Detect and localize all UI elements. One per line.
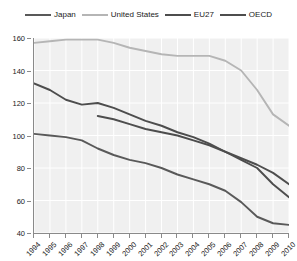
y-tick-mark bbox=[27, 201, 31, 202]
y-tick-label: 80 bbox=[17, 164, 25, 173]
legend-swatch-icon bbox=[220, 14, 246, 16]
x-tick-mark bbox=[161, 234, 162, 238]
legend-label: EU27 bbox=[194, 11, 214, 19]
y-tick-label: 100 bbox=[12, 131, 25, 140]
x-tick-label: 1995 bbox=[40, 240, 58, 258]
x-tick-label: 1998 bbox=[88, 240, 106, 258]
series-line-eu27 bbox=[34, 84, 289, 198]
x-tick-mark bbox=[97, 234, 98, 238]
legend-label: OECD bbox=[249, 11, 272, 19]
x-tick-mark bbox=[256, 234, 257, 238]
x-tick-mark bbox=[113, 234, 114, 238]
legend-label: United States bbox=[111, 11, 159, 19]
x-tick-mark bbox=[49, 234, 50, 238]
series-line-oecd bbox=[98, 116, 289, 184]
x-tick-mark bbox=[129, 234, 130, 238]
x-tick-mark bbox=[208, 234, 209, 238]
x-tick-mark bbox=[288, 234, 289, 238]
x-tick-label: 2003 bbox=[168, 240, 186, 258]
x-tick-label: 2001 bbox=[136, 240, 154, 258]
y-tick-mark bbox=[27, 168, 31, 169]
y-tick-label: 160 bbox=[12, 34, 25, 43]
y-axis: 160140120100806040 bbox=[0, 38, 31, 233]
y-tick-mark bbox=[27, 103, 31, 104]
y-tick-label: 60 bbox=[17, 196, 25, 205]
x-tick-label: 2008 bbox=[247, 240, 265, 258]
x-tick-label: 2004 bbox=[184, 240, 202, 258]
y-tick-mark bbox=[27, 136, 31, 137]
x-tick-label: 2010 bbox=[279, 240, 297, 258]
x-tick-label: 1994 bbox=[24, 240, 42, 258]
legend-item-united-states[interactable]: United States bbox=[82, 11, 159, 19]
chart-legend: JapanUnited StatesEU27OECD bbox=[0, 0, 297, 30]
x-tick-label: 2006 bbox=[215, 240, 233, 258]
legend-label: Japan bbox=[54, 11, 76, 19]
x-tick-label: 2009 bbox=[263, 240, 281, 258]
legend-swatch-icon bbox=[25, 14, 51, 16]
legend-item-japan[interactable]: Japan bbox=[25, 11, 76, 19]
x-tick-mark bbox=[65, 234, 66, 238]
x-tick-label: 2007 bbox=[231, 240, 249, 258]
x-tick-label: 2005 bbox=[200, 240, 218, 258]
series-line-japan bbox=[34, 134, 289, 225]
x-tick-label: 1996 bbox=[56, 240, 74, 258]
y-tick-label: 140 bbox=[12, 66, 25, 75]
series-line-united-states bbox=[34, 40, 289, 126]
x-tick-mark bbox=[81, 234, 82, 238]
x-tick-label: 2000 bbox=[120, 240, 138, 258]
legend-swatch-icon bbox=[165, 14, 191, 16]
y-tick-mark bbox=[27, 71, 31, 72]
y-tick-label: 40 bbox=[17, 229, 25, 238]
legend-item-eu27[interactable]: EU27 bbox=[165, 11, 214, 19]
x-tick-label: 2002 bbox=[152, 240, 170, 258]
legend-item-oecd[interactable]: OECD bbox=[220, 11, 272, 19]
x-axis: 1994199519961997199819992000200120022003… bbox=[33, 234, 288, 261]
y-tick-mark bbox=[27, 233, 31, 234]
legend-swatch-icon bbox=[82, 14, 108, 16]
line-chart-figure: JapanUnited StatesEU27OECD 1601401201008… bbox=[0, 0, 297, 261]
x-tick-mark bbox=[145, 234, 146, 238]
x-tick-mark bbox=[192, 234, 193, 238]
x-tick-mark bbox=[176, 234, 177, 238]
x-tick-label: 1999 bbox=[104, 240, 122, 258]
y-tick-mark bbox=[27, 38, 31, 39]
x-tick-mark bbox=[224, 234, 225, 238]
data-series-layer bbox=[34, 38, 289, 233]
y-tick-label: 120 bbox=[12, 99, 25, 108]
x-tick-label: 1997 bbox=[72, 240, 90, 258]
x-tick-mark bbox=[240, 234, 241, 238]
x-tick-mark bbox=[272, 234, 273, 238]
x-tick-mark bbox=[33, 234, 34, 238]
plot-area bbox=[33, 38, 289, 234]
